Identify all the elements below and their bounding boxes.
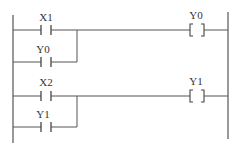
contact-x1: [41, 25, 51, 35]
contact-label-y1: Y1: [36, 108, 49, 120]
coil-y0: [190, 24, 204, 36]
coil-label-y0: Y0: [189, 9, 203, 21]
ladder-diagram: X1 Y0 Y0 X2 Y1: [0, 0, 240, 146]
contact-y0-parallel: [41, 57, 51, 67]
coil-y1: [190, 90, 204, 102]
rung-2: X2 Y1 Y1: [13, 75, 228, 132]
rung-1: X1 Y0 Y0: [13, 9, 228, 67]
contact-y1-parallel: [41, 122, 51, 132]
coil-label-y1: Y1: [189, 75, 202, 87]
contact-label-x1: X1: [39, 11, 52, 23]
contact-label-x2: X2: [39, 76, 52, 88]
contact-label-y0: Y0: [36, 43, 50, 55]
contact-x2: [41, 91, 51, 101]
